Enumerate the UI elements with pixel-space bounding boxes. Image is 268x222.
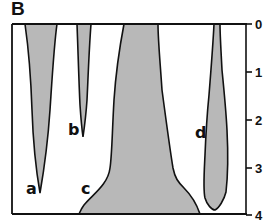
panel-label: B bbox=[11, 0, 25, 20]
axis-tick-label-0: 0 bbox=[255, 18, 262, 31]
axis-tick-label-2: 2 bbox=[255, 114, 262, 127]
diagram-canvas bbox=[0, 0, 268, 222]
axis-tick-label-3: 3 bbox=[255, 162, 262, 175]
shape-label-c: c bbox=[81, 181, 90, 197]
shape-label-b: b bbox=[68, 122, 79, 138]
shape-d bbox=[204, 24, 228, 210]
shape-label-d: d bbox=[195, 125, 206, 141]
shape-b bbox=[77, 24, 91, 137]
axis-tick-label-1: 1 bbox=[255, 66, 262, 79]
shape-a bbox=[25, 24, 57, 193]
shape-c bbox=[79, 24, 200, 214]
axis-tick-label-4: 4 bbox=[255, 209, 262, 222]
shape-label-a: a bbox=[26, 181, 37, 197]
figure-panel-b: B 0 1 2 3 4 a b c d bbox=[0, 0, 268, 222]
